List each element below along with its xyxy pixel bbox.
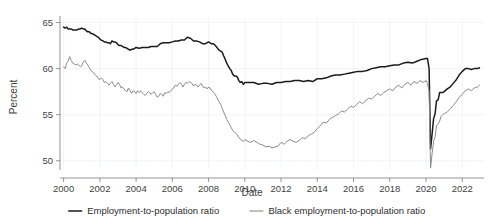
x-tick-label: 2022 — [452, 183, 473, 194]
y-tick-label: 65 — [42, 17, 53, 28]
x-tick-label: 2008 — [198, 183, 219, 194]
chart-legend: Employment-to-population ratioBlack empl… — [68, 205, 425, 216]
y-tick-label: 50 — [42, 155, 53, 166]
chart-container: 50556065 2000200220042006200820102012201… — [0, 0, 491, 224]
legend-label-2: Black employment-to-population ratio — [268, 205, 425, 216]
x-axis-title: Date — [241, 187, 263, 198]
y-tick-label: 55 — [42, 109, 53, 120]
y-tick-label: 60 — [42, 63, 53, 74]
y-axis-title: Percent — [8, 80, 19, 115]
series-lines — [64, 27, 480, 168]
x-tick-label: 2002 — [89, 183, 110, 194]
y-axis-ticks: 50556065 — [42, 17, 60, 166]
x-tick-label: 2018 — [379, 183, 400, 194]
series-line-1 — [64, 27, 480, 149]
axis-lines — [60, 16, 484, 178]
line-chart: 50556065 2000200220042006200820102012201… — [0, 0, 491, 224]
series-line-2 — [64, 57, 480, 169]
x-axis-ticks: 2000200220042006200820102012201420162018… — [53, 178, 473, 194]
x-tick-label: 2014 — [307, 183, 328, 194]
x-tick-label: 2006 — [162, 183, 183, 194]
gridlines — [60, 17, 484, 170]
x-tick-label: 2000 — [53, 183, 74, 194]
x-tick-label: 2012 — [270, 183, 291, 194]
legend-label-1: Employment-to-population ratio — [87, 205, 219, 216]
x-tick-label: 2004 — [126, 183, 147, 194]
x-tick-label: 2020 — [415, 183, 436, 194]
x-tick-label: 2016 — [343, 183, 364, 194]
